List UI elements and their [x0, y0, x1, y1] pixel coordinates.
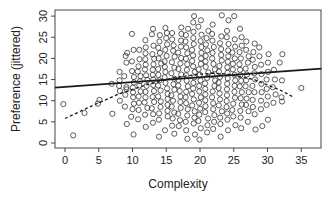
data-point	[163, 25, 168, 30]
data-point	[191, 86, 196, 91]
data-point	[239, 43, 244, 48]
x-axis: 05101520253035	[62, 148, 307, 166]
data-point	[130, 69, 135, 74]
data-point	[61, 102, 66, 107]
data-point	[172, 87, 177, 92]
data-point	[210, 56, 215, 61]
data-point	[224, 104, 229, 109]
data-point	[212, 113, 217, 118]
data-point	[184, 45, 189, 50]
x-tick-label: 20	[194, 154, 206, 166]
data-point	[131, 101, 136, 106]
data-point	[71, 133, 76, 138]
data-point	[219, 13, 224, 18]
data-point	[239, 35, 244, 40]
data-point	[210, 89, 215, 94]
data-point	[243, 78, 248, 83]
data-point	[259, 62, 264, 67]
y-tick-label: 20	[37, 52, 49, 64]
data-point	[123, 92, 128, 97]
data-point	[225, 117, 230, 122]
data-point	[157, 39, 162, 44]
data-point	[183, 95, 188, 100]
data-point	[272, 77, 277, 82]
data-point	[184, 67, 189, 72]
y-tick-label: 15	[37, 73, 49, 85]
data-point	[143, 95, 148, 100]
data-point	[157, 50, 162, 55]
data-point	[196, 118, 201, 123]
data-point	[117, 69, 122, 74]
data-point	[203, 104, 208, 109]
data-point	[176, 124, 181, 129]
data-point	[246, 90, 251, 95]
data-point	[137, 57, 142, 62]
data-point	[183, 73, 188, 78]
data-point	[230, 67, 235, 72]
data-point	[165, 108, 170, 113]
data-point	[191, 41, 196, 46]
data-point	[216, 103, 221, 108]
data-point	[198, 106, 203, 111]
data-point	[170, 98, 175, 103]
data-point	[225, 128, 230, 133]
data-point	[265, 94, 270, 99]
data-point	[224, 35, 229, 40]
data-point	[197, 112, 202, 117]
data-point	[164, 36, 169, 41]
data-point	[158, 104, 163, 109]
data-point	[151, 112, 156, 117]
data-point	[170, 123, 175, 128]
data-point	[210, 31, 215, 36]
data-point	[266, 52, 271, 57]
data-point	[264, 102, 269, 107]
data-point	[143, 124, 148, 129]
data-point	[186, 26, 191, 31]
data-point	[129, 31, 134, 36]
data-point	[143, 38, 148, 43]
data-point	[157, 111, 162, 116]
data-point	[219, 58, 224, 63]
data-point	[171, 43, 176, 48]
data-point	[244, 39, 249, 44]
data-point	[273, 92, 278, 97]
data-point	[257, 45, 262, 50]
data-point	[138, 74, 143, 79]
data-point	[150, 120, 155, 125]
data-point	[250, 97, 255, 102]
data-point	[179, 55, 184, 60]
data-point	[252, 112, 257, 117]
data-point	[218, 134, 223, 139]
data-point	[158, 88, 163, 93]
data-point	[131, 74, 136, 79]
data-point	[216, 85, 221, 90]
data-point	[183, 56, 188, 61]
data-point	[225, 81, 230, 86]
data-point	[190, 47, 195, 52]
data-point	[117, 98, 122, 103]
data-point	[151, 88, 156, 93]
data-point	[203, 64, 208, 69]
data-point	[224, 93, 229, 98]
data-point	[217, 97, 222, 102]
data-point	[211, 44, 216, 49]
data-point	[136, 117, 141, 122]
data-point	[191, 53, 196, 58]
data-point	[179, 25, 184, 30]
data-point	[264, 86, 269, 91]
data-point	[233, 44, 238, 49]
data-point	[246, 109, 251, 114]
data-point	[217, 63, 222, 68]
data-point	[130, 107, 135, 112]
data-point	[270, 85, 275, 90]
data-point	[231, 114, 236, 119]
data-point	[192, 14, 197, 19]
data-point	[191, 36, 196, 41]
data-point	[232, 14, 237, 19]
data-point	[280, 52, 285, 57]
data-point	[129, 114, 134, 119]
x-tick-label: 35	[295, 154, 307, 166]
data-point	[250, 83, 255, 88]
data-point	[192, 132, 197, 137]
data-point	[178, 94, 183, 99]
